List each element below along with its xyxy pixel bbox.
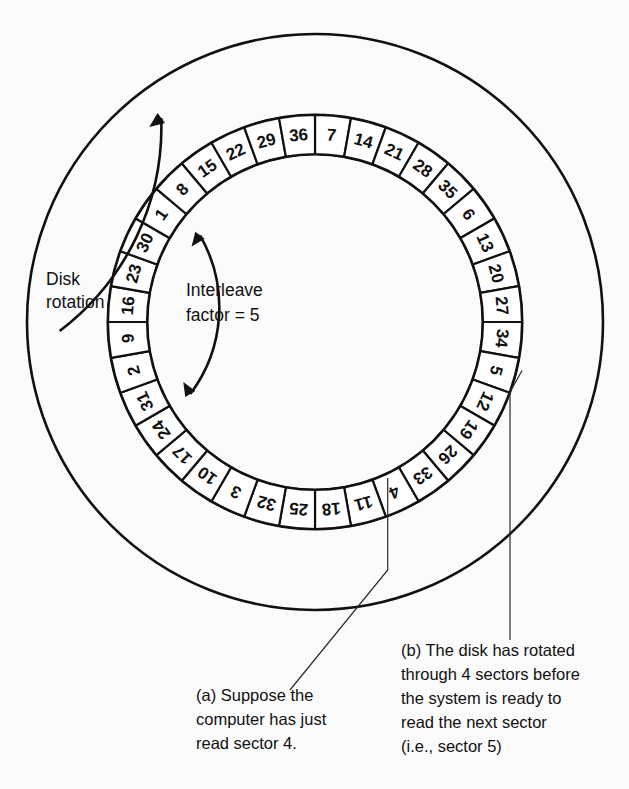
sector-number: 9 — [118, 333, 138, 344]
caption-line: read sector 4. — [196, 734, 297, 752]
interleave-label-line1: Interleave — [186, 280, 263, 300]
caption-line: (i.e., sector 5) — [401, 737, 502, 755]
interleave-label: Interleave factor = 5 — [186, 280, 263, 325]
sector-number: 34 — [491, 328, 512, 349]
sector-number: 27 — [492, 295, 513, 316]
caption-b: (b) The disk has rotatedthrough 4 sector… — [401, 641, 580, 755]
caption-a: (a) Suppose thecomputer has justread sec… — [196, 686, 327, 752]
sector-number: 16 — [118, 295, 139, 316]
sector-number: 7 — [326, 125, 337, 145]
sector-number: 36 — [288, 125, 309, 146]
disk-diagram-canvas: 7142128356132027345121926334111825323101… — [0, 0, 629, 789]
disk-rotation-label: Disk rotation — [46, 269, 104, 312]
sector-number: 25 — [288, 499, 309, 520]
caption-line: (b) The disk has rotated — [401, 641, 575, 659]
caption-line: through 4 sectors before — [401, 665, 580, 683]
caption-line: (a) Suppose the — [196, 686, 313, 704]
caption-line: the system is ready to — [401, 689, 561, 707]
interleave-arrowhead-top — [192, 232, 205, 247]
caption-line: read the next sector — [401, 713, 547, 731]
disk-rotation-label-line2: rotation — [46, 292, 104, 312]
caption-b-leader-line — [510, 371, 522, 641]
disk-interleave-diagram: 7142128356132027345121926334111825323101… — [0, 0, 629, 789]
interleave-label-line2: factor = 5 — [186, 305, 259, 325]
caption-line: computer has just — [196, 710, 327, 728]
sector-ring: 7142128356132027345121926334111825323101… — [108, 115, 522, 529]
sector-number: 18 — [321, 499, 342, 520]
disk-rotation-label-line1: Disk — [46, 269, 80, 289]
